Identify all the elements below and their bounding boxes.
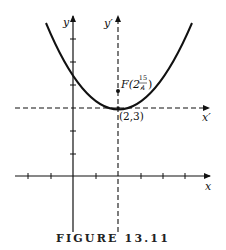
- svg-text:4: 4: [141, 84, 145, 92]
- parabola-figure: y y′ x x′ F(2, 15 4 ) (2,3): [0, 0, 226, 250]
- svg-text:15: 15: [139, 74, 147, 82]
- focus-label: F(2, 15 4 ): [120, 74, 152, 92]
- vertex-label: (2,3): [119, 110, 144, 122]
- y-prime-arrow-icon: [115, 15, 121, 22]
- x-axis-label: x: [205, 180, 212, 193]
- y-prime-axis-label: y′: [103, 17, 113, 30]
- y-axis-label: y: [62, 16, 70, 29]
- focus-point: [116, 89, 120, 93]
- x-prime-axis-label: x′: [202, 111, 211, 124]
- figure-caption: FIGURE 13.11: [0, 232, 226, 245]
- parabola-curve: [46, 23, 192, 110]
- svg-text:): ): [148, 78, 152, 91]
